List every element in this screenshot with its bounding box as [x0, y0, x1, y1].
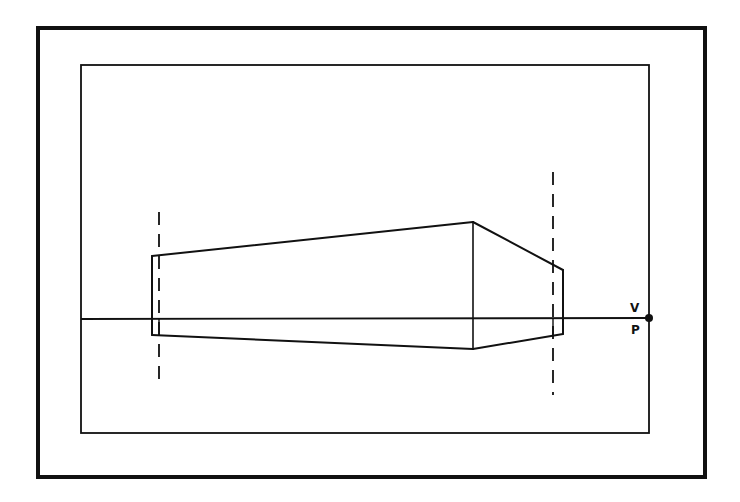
- box-top-right-edge: [473, 222, 563, 270]
- perspective-diagram: V P: [0, 0, 740, 502]
- vanishing-point-dot: [645, 314, 653, 322]
- box-top-left-edge: [152, 222, 473, 256]
- outer-frame: [38, 28, 705, 477]
- inner-frame: [81, 65, 649, 433]
- box-shape: [152, 222, 563, 349]
- label-p: P: [631, 323, 640, 337]
- box-bottom-right-edge: [473, 334, 563, 349]
- box-bottom-left-edge: [152, 335, 473, 349]
- dashed-guides: [159, 172, 553, 395]
- label-v: V: [630, 301, 640, 315]
